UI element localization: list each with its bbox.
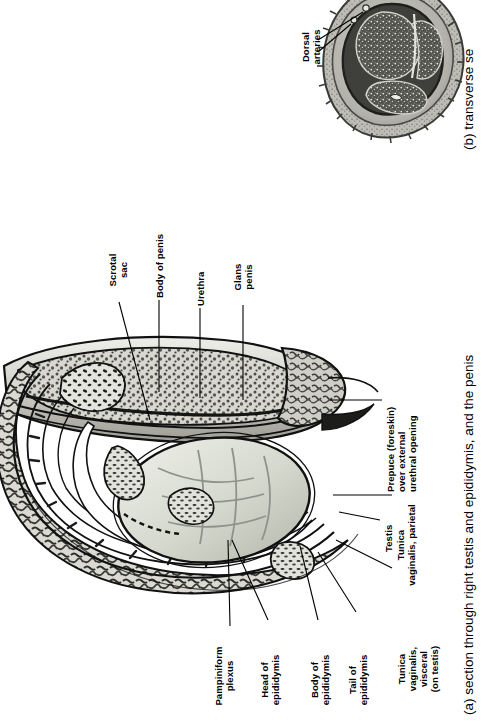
leader-lines-panel-b — [0, 0, 490, 722]
label-dorsal-arteries: Dorsal arteries — [300, 14, 322, 80]
label-dorsal-arteries-line1: Dorsal — [300, 14, 311, 80]
label-dorsal-arteries-line2: arteries — [311, 14, 322, 80]
figure-page: Scrotal sac Body of penis Urethra Glans … — [0, 0, 490, 722]
panel-b-caption: (b) transverse se — [461, 49, 477, 150]
panel-b-caption-text: (b) transverse se — [461, 49, 476, 150]
